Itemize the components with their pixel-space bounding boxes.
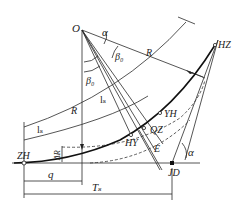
label-r-right: R (145, 47, 152, 58)
label-qz: QZ (150, 124, 163, 135)
second-tangent-b (185, 40, 218, 160)
label-zh: ZH (17, 150, 31, 161)
hz-point (213, 43, 216, 46)
jd-point (170, 161, 174, 165)
label-beta-1: β₀ (114, 51, 124, 62)
transition-curve (14, 45, 215, 163)
label-q: q (48, 168, 54, 180)
label-delta-r: ΔR (53, 150, 62, 161)
tick-top (178, 17, 195, 24)
label-alpha-jd: α (188, 146, 194, 158)
yh-point (158, 111, 161, 114)
label-beta-2: β₀ (85, 75, 95, 86)
label-ls-top: lₛ (100, 94, 106, 105)
label-ls-left: lₛ (37, 124, 43, 135)
radius-line-right (82, 30, 203, 77)
outer-dashed (90, 120, 190, 163)
label-hy: HY (124, 137, 139, 148)
label-ts: Tₛ (92, 181, 102, 193)
zh-point (22, 161, 26, 165)
transition-curve-diagram: O α β₀ β₀ R R lₛ lₛ ZH HY QZ YH HZ JD E … (0, 0, 245, 215)
label-yh: YH (164, 108, 178, 119)
label-hz: HZ (217, 39, 231, 50)
label-e: E (153, 143, 160, 154)
label-alpha-top: α (102, 26, 108, 38)
label-o: O (72, 22, 80, 34)
label-jd: JD (168, 167, 180, 178)
qz-point (142, 126, 145, 129)
beta-arc-3 (84, 66, 100, 72)
label-r-left: R (70, 105, 77, 116)
radius-line-extra (82, 30, 155, 150)
